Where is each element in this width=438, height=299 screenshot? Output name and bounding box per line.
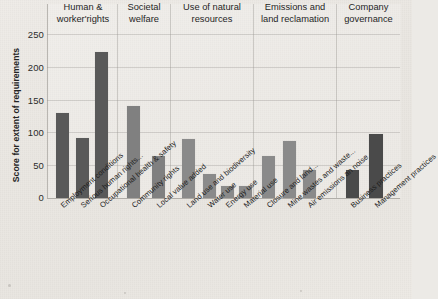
scan-speck <box>8 284 11 287</box>
bar-0 <box>56 113 69 198</box>
scan-speck <box>300 290 302 292</box>
scan-speck <box>124 292 126 294</box>
